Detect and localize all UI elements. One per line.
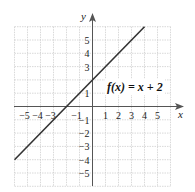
y-tick-label: 5 <box>85 35 90 46</box>
function-label: f(x) = x + 2 <box>107 80 163 94</box>
function-graph: x y −5−4−3−1123455431−1−2−3−4−5 f(x) = x… <box>0 0 195 192</box>
y-tick-label: −5 <box>79 168 90 179</box>
x-tick-label: 5 <box>155 110 160 121</box>
y-axis-label: y <box>80 10 86 22</box>
y-tick-label: 4 <box>85 48 90 59</box>
y-tick-label: −4 <box>79 155 90 166</box>
x-tick-label: 1 <box>103 110 108 121</box>
y-tick-label: −3 <box>79 141 90 152</box>
x-tick-label: 4 <box>142 110 147 121</box>
x-tick-label: −4 <box>32 110 43 121</box>
x-tick-label: 3 <box>129 110 134 121</box>
y-tick-label: −1 <box>79 115 90 126</box>
y-tick-label: 1 <box>85 88 90 99</box>
y-tick-label: −2 <box>79 128 90 139</box>
y-tick-label: 3 <box>85 62 90 73</box>
x-tick-label: 2 <box>116 110 121 121</box>
x-axis-label: x <box>177 108 183 120</box>
x-tick-label: −5 <box>19 110 30 121</box>
